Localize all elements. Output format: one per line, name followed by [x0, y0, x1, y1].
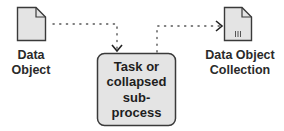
- data-object-label: Data Object: [6, 48, 56, 77]
- label-line: Task or: [107, 59, 167, 75]
- label-line: Data: [6, 48, 56, 63]
- data-object-icon[interactable]: [18, 8, 46, 41]
- label-line: process: [107, 105, 167, 121]
- label-line: Collection: [196, 63, 284, 78]
- data-object-collection-icon[interactable]: [225, 8, 252, 41]
- data-input-association[interactable]: [53, 24, 122, 51]
- label-line: Object: [6, 63, 56, 78]
- label-line: Data Object: [196, 48, 284, 63]
- label-line: sub-: [107, 90, 167, 106]
- task-label: Task or collapsed sub- process: [97, 53, 176, 126]
- label-line: collapsed: [107, 74, 167, 90]
- data-object-collection-label: Data Object Collection: [196, 48, 284, 77]
